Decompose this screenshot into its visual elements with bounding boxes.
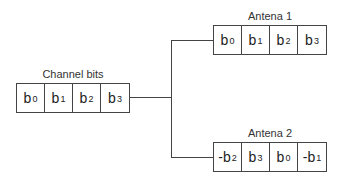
bit-cell: -b2 [214,143,242,171]
antenna1-row: b0 b1 b2 b3 [213,25,327,55]
antenna1-label: Antena 1 [213,10,327,22]
bit-cell: b1 [45,84,73,112]
antenna2-row: -b2 b3 b0 -b1 [213,142,327,172]
bit-cell: b2 [73,84,101,112]
bit-cell: b1 [242,26,270,54]
connector-horizontal-antenna2 [171,157,213,158]
channel-bits-row: b0 b1 b2 b3 [16,83,130,113]
connector-horizontal-source [130,97,172,98]
bit-cell: b3 [298,26,326,54]
channel-bits-label: Channel bits [16,68,130,80]
bit-cell: -b1 [298,143,326,171]
antenna2-label: Antena 2 [213,127,327,139]
bit-cell: b3 [242,143,270,171]
bit-cell: b0 [214,26,242,54]
bit-cell: b3 [101,84,129,112]
bit-cell: b0 [17,84,45,112]
connector-vertical [171,40,172,158]
bit-cell: b0 [270,143,298,171]
connector-horizontal-antenna1 [171,40,213,41]
bit-cell: b2 [270,26,298,54]
